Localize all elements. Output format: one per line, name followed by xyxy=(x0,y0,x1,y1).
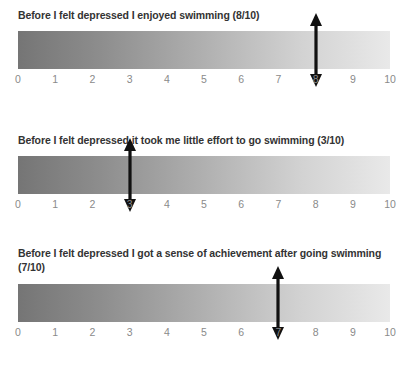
scale-block: Before I felt depressed I got a sense of… xyxy=(0,238,407,346)
tick-label: 5 xyxy=(192,73,216,85)
tick-label: 8 xyxy=(304,326,328,338)
tick-label: 8 xyxy=(304,198,328,210)
tick-label: 10 xyxy=(378,198,402,210)
tick-label: 7 xyxy=(266,326,290,338)
tick-label: 5 xyxy=(192,198,216,210)
tick-label: 6 xyxy=(229,326,253,338)
tick-label: 6 xyxy=(229,198,253,210)
tick-label: 7 xyxy=(266,198,290,210)
scale-block: Before I felt depressed it took me littl… xyxy=(0,125,407,218)
tick-label: 2 xyxy=(80,198,104,210)
tick-label: 1 xyxy=(43,326,67,338)
tick-label: 10 xyxy=(378,326,402,338)
tick-label: 0 xyxy=(6,198,30,210)
tick-label: 3 xyxy=(118,73,142,85)
tick-label: 3 xyxy=(118,198,142,210)
tick-label: 3 xyxy=(118,326,142,338)
tick-label: 7 xyxy=(266,73,290,85)
scale-title: Before I felt depressed it took me littl… xyxy=(0,125,407,147)
tick-label: 6 xyxy=(229,73,253,85)
tick-row: 012345678910 xyxy=(0,326,407,346)
tick-label: 1 xyxy=(43,73,67,85)
tick-label: 10 xyxy=(378,73,402,85)
gradient-bar xyxy=(18,284,390,322)
tick-label: 5 xyxy=(192,326,216,338)
tick-label: 2 xyxy=(80,73,104,85)
scale-title: Before I felt depressed I got a sense of… xyxy=(0,238,407,275)
tick-row: 012345678910 xyxy=(0,73,407,93)
tick-row: 012345678910 xyxy=(0,198,407,218)
gradient-bar xyxy=(18,31,390,69)
tick-label: 9 xyxy=(341,326,365,338)
tick-label: 4 xyxy=(155,73,179,85)
tick-label: 1 xyxy=(43,198,67,210)
tick-label: 0 xyxy=(6,326,30,338)
tick-label: 8 xyxy=(304,73,328,85)
tick-label: 4 xyxy=(155,198,179,210)
tick-label: 9 xyxy=(341,198,365,210)
scale-bar-area xyxy=(0,156,407,194)
tick-label: 0 xyxy=(6,73,30,85)
scale-title: Before I felt depressed I enjoyed swimmi… xyxy=(0,0,407,22)
scale-block: Before I felt depressed I enjoyed swimmi… xyxy=(0,0,407,93)
scale-bar-area xyxy=(0,31,407,69)
gradient-bar xyxy=(18,156,390,194)
tick-label: 4 xyxy=(155,326,179,338)
scale-bar-area xyxy=(0,284,407,322)
tick-label: 2 xyxy=(80,326,104,338)
tick-label: 9 xyxy=(341,73,365,85)
